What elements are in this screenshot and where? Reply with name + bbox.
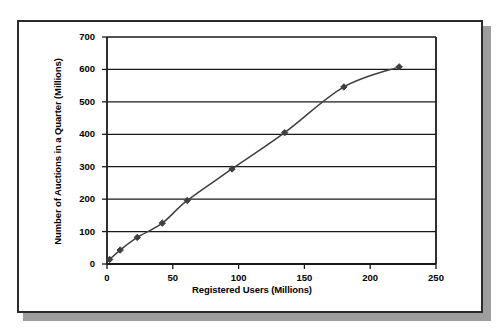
- y-tick-label: 300: [65, 161, 95, 172]
- chart-plot-area: Number of Auctions in a Quarter (Million…: [19, 22, 485, 315]
- x-tick-label: 150: [289, 272, 319, 283]
- y-tick-label: 0: [65, 258, 95, 269]
- figure-frame: Number of Auctions in a Quarter (Million…: [17, 20, 483, 313]
- x-tick-label: 100: [224, 272, 254, 283]
- x-tick-label: 0: [92, 272, 122, 283]
- y-tick-label: 700: [65, 31, 95, 42]
- y-tick-label: 600: [65, 63, 95, 74]
- y-tick-label: 500: [65, 96, 95, 107]
- x-tick-label: 50: [158, 272, 188, 283]
- x-tick-label: 250: [421, 272, 451, 283]
- y-tick-label: 100: [65, 226, 95, 237]
- series-line: [110, 67, 400, 260]
- chart-page: Number of Auctions in a Quarter (Million…: [0, 0, 502, 334]
- data-point-marker: [341, 84, 347, 90]
- y-tick-label: 200: [65, 193, 95, 204]
- x-tick-label: 200: [355, 272, 385, 283]
- y-tick-label: 400: [65, 128, 95, 139]
